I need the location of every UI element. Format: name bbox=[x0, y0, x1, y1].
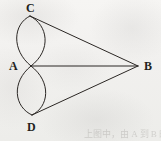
vertex-label-a: A bbox=[9, 60, 18, 72]
arc-c-a-left bbox=[17, 16, 31, 66]
graph-diagram bbox=[0, 0, 161, 141]
vertex-label-d: D bbox=[27, 121, 36, 133]
arc-c-a-right bbox=[30, 16, 45, 66]
arc-a-d-right bbox=[31, 66, 46, 115]
line-d-b bbox=[32, 66, 138, 115]
vertex-label-b: B bbox=[144, 60, 152, 72]
arc-a-d-left bbox=[17, 66, 32, 115]
vertex-label-c: C bbox=[26, 2, 35, 14]
line-c-b bbox=[30, 16, 138, 66]
figure-canvas: C A B D 上图中，由 A 到 B 的路径有几条 bbox=[0, 0, 161, 141]
